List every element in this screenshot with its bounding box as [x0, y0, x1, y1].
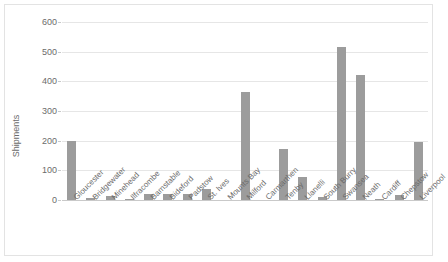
bar-slot	[390, 22, 409, 200]
y-tick-mark	[58, 52, 61, 53]
y-axis-title-text: Shipments	[11, 115, 21, 158]
y-tick-mark	[58, 141, 61, 142]
y-tick-mark	[58, 81, 61, 82]
bar-slot	[62, 22, 81, 200]
y-tick-label: 0	[52, 195, 57, 205]
y-tick-label: 500	[42, 47, 57, 57]
y-tick-mark	[58, 200, 61, 201]
y-tick-label: 100	[42, 165, 57, 175]
y-tick-label: 300	[42, 106, 57, 116]
y-tick-label: 400	[42, 76, 57, 86]
y-tick-mark	[58, 170, 61, 171]
bar-slot	[370, 22, 389, 200]
bar-slot	[197, 22, 216, 200]
y-axis-title: Shipments	[9, 91, 23, 181]
y-tick-label: 600	[42, 17, 57, 27]
y-tick-label: 200	[42, 136, 57, 146]
bar-slot	[216, 22, 235, 200]
y-tick-mark	[58, 22, 61, 23]
bar-slot	[312, 22, 331, 200]
x-axis-labels: GloucesterBridgewaterMineheadIlfracombeB…	[62, 201, 428, 262]
chart-container: Shipments 0100200300400500600 Gloucester…	[4, 4, 433, 256]
y-tick-mark	[58, 111, 61, 112]
